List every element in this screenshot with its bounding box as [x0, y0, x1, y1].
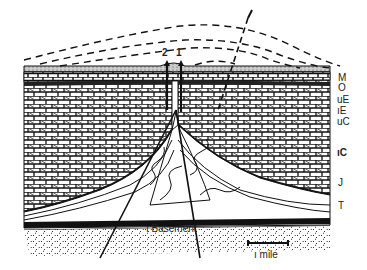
scale-bar-label: ı mile [254, 250, 278, 260]
basement-label: ı Basement [146, 224, 197, 234]
fault-label-2: 2 [162, 48, 168, 58]
stratum-label-lC: ıC [337, 148, 347, 158]
layer-M [24, 63, 330, 72]
stratum-label-J: J [338, 178, 343, 188]
stratum-label-uE: uE [337, 95, 349, 105]
fault-label-1: 1 [176, 48, 182, 58]
eroded-strata-dashed [24, 25, 340, 68]
stratum-label-O: O [338, 83, 346, 93]
stratum-label-lE: ıE [337, 106, 346, 116]
stratum-label-T: T [338, 201, 344, 211]
geologic-cross-section: M O uE ıE uC ıC J T 2 1 ı Basement ı mil… [0, 0, 367, 270]
stratum-label-uC: uC [337, 117, 350, 127]
